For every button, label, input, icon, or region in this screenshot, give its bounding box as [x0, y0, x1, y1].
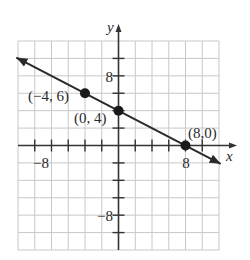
data-point	[181, 141, 191, 151]
y-tick-label-neg8: −8	[97, 208, 113, 224]
point-label-8-0: (8,0)	[188, 125, 217, 142]
x-tick-label-neg8: −8	[33, 155, 49, 171]
y-axis-arrow-icon	[116, 24, 122, 32]
x-tick-label-8: 8	[182, 155, 190, 171]
point-label-neg4-6: (−4, 6)	[28, 88, 69, 105]
data-point	[114, 106, 124, 116]
y-tick-label-8: 8	[106, 69, 114, 85]
point-label-0-4: (0, 4)	[74, 110, 107, 127]
coordinate-graph: y x −8 8 8 −8 (−4, 6) (0, 4) (8,0)	[0, 0, 250, 260]
x-axis-label: x	[225, 148, 233, 164]
data-point	[80, 88, 90, 98]
y-axis-label: y	[105, 19, 114, 35]
